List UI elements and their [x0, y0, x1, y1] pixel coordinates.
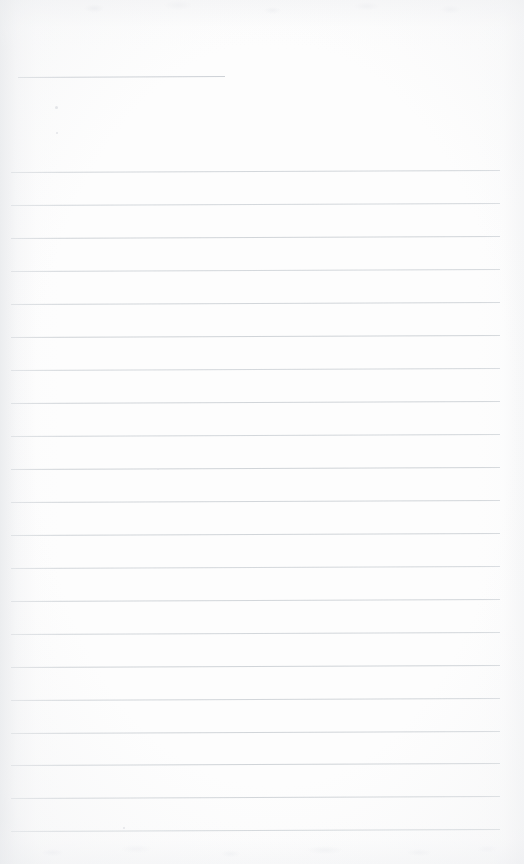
scanned-page	[0, 0, 524, 864]
paper-background	[0, 0, 524, 864]
